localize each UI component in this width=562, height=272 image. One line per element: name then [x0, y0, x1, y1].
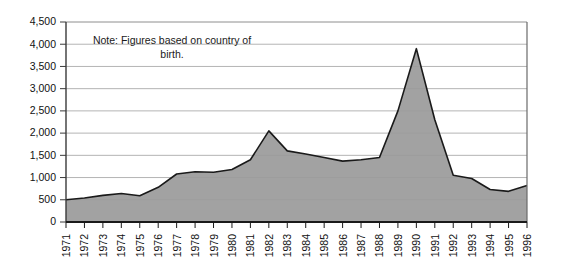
y-tick-label: 4,000 — [30, 38, 56, 50]
x-tick-label: 1985 — [318, 234, 330, 258]
y-tick-label: 0 — [50, 215, 56, 227]
x-tick-label: 1991 — [429, 234, 441, 258]
x-tick-label: 1987 — [355, 234, 367, 258]
y-tick-label: 1,000 — [30, 171, 56, 183]
x-tick-label: 1975 — [134, 234, 146, 258]
x-tick-label: 1994 — [484, 234, 496, 258]
area-chart-figure: 4,5004,0003,5003,0002,5002,0001,5001,000… — [0, 0, 562, 272]
y-tick-label: 3,000 — [30, 82, 56, 94]
x-tick-label: 1986 — [337, 234, 349, 258]
x-tick-label: 1995 — [503, 234, 515, 258]
x-tick-label: 1990 — [410, 234, 422, 258]
x-tick-label: 1996 — [521, 234, 533, 258]
x-tick-label: 1978 — [189, 234, 201, 258]
x-tick-label: 1992 — [447, 234, 459, 258]
x-tick-label: 1972 — [78, 234, 90, 258]
chart-canvas: 4,5004,0003,5003,0002,5002,0001,5001,000… — [0, 0, 562, 272]
x-tick-label: 1989 — [392, 234, 404, 258]
x-tick-label: 1993 — [466, 234, 478, 258]
x-tick-label: 1974 — [115, 234, 127, 258]
x-tick-label: 1980 — [226, 234, 238, 258]
x-tick-label: 1977 — [171, 234, 183, 258]
x-tick-label: 1979 — [208, 234, 220, 258]
y-axis-ticks: 4,5004,0003,5003,0002,5002,0001,5001,000… — [30, 15, 66, 227]
y-tick-label: 1,500 — [30, 149, 56, 161]
note-line-1: Note: Figures based on country of — [93, 34, 251, 46]
x-tick-label: 1981 — [244, 234, 256, 258]
y-tick-label: 3,500 — [30, 60, 56, 72]
x-tick-label: 1973 — [97, 234, 109, 258]
y-tick-label: 2,000 — [30, 126, 56, 138]
x-tick-label: 1976 — [152, 234, 164, 258]
x-tick-label: 1983 — [281, 234, 293, 258]
x-tick-label: 1971 — [60, 234, 72, 258]
y-tick-label: 2,500 — [30, 104, 56, 116]
x-tick-label: 1982 — [263, 234, 275, 258]
x-tick-label: 1988 — [373, 234, 385, 258]
note-annotation: Note: Figures based on country ofbirth. — [93, 34, 251, 60]
y-tick-label: 500 — [38, 193, 56, 205]
x-axis-ticks: 1971197219731974197519761977197819791980… — [60, 222, 533, 257]
note-line-2: birth. — [160, 48, 183, 60]
y-tick-label: 4,500 — [30, 15, 56, 27]
x-tick-label: 1984 — [300, 234, 312, 258]
